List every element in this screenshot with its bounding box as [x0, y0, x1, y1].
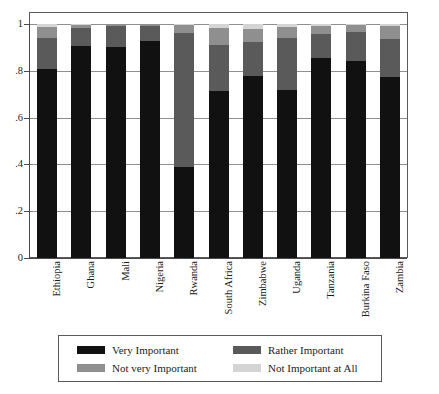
- bar-stack: [174, 24, 194, 258]
- legend-swatch-not-very-important: [77, 364, 105, 372]
- legend-item-label: Rather Important: [268, 344, 343, 356]
- bar-group[interactable]: [277, 24, 297, 258]
- bar-segment[interactable]: [140, 26, 160, 41]
- bar-segment[interactable]: [174, 33, 194, 167]
- bar-group[interactable]: [243, 24, 263, 258]
- bar-segment[interactable]: [71, 28, 91, 45]
- bar-segment[interactable]: [277, 27, 297, 38]
- bar-segment[interactable]: [243, 76, 263, 258]
- legend-item[interactable]: Not Important at All: [221, 359, 377, 377]
- bar-segment[interactable]: [346, 32, 366, 60]
- bar-segment[interactable]: [277, 90, 297, 258]
- legend-item[interactable]: Very Important: [65, 341, 221, 359]
- bar-segment[interactable]: [311, 58, 331, 258]
- bar-stack: [311, 24, 331, 258]
- legend-item[interactable]: Not very Important: [65, 359, 221, 377]
- x-axis-label-text: Zambia: [394, 261, 405, 293]
- bar-segment[interactable]: [209, 91, 229, 258]
- x-axis-label: Tanzania: [325, 261, 336, 299]
- y-tick-label: .2: [0, 206, 23, 216]
- legend-item[interactable]: Rather Important: [221, 341, 377, 359]
- bar-segment[interactable]: [346, 61, 366, 258]
- x-axis-label-text: Ghana: [85, 261, 96, 288]
- bar-group[interactable]: [346, 24, 366, 258]
- y-tick-label-text: .8: [1, 66, 23, 76]
- bar-segment[interactable]: [277, 38, 297, 90]
- bar-stack: [209, 24, 229, 258]
- bar-segment[interactable]: [37, 38, 57, 69]
- bar-group[interactable]: [106, 24, 126, 258]
- bar-segment[interactable]: [380, 77, 400, 258]
- x-axis-labels: EthiopiaGhanaMaliNigeriaRwandaSouth Afri…: [30, 259, 407, 329]
- x-axis-label-text: Nigeria: [154, 261, 165, 293]
- x-axis-label: Ghana: [85, 261, 96, 288]
- bar-segment[interactable]: [37, 27, 57, 38]
- y-tick-label: .4: [0, 159, 23, 169]
- bar-segment[interactable]: [346, 25, 366, 32]
- bar-stack: [380, 24, 400, 258]
- bar-segment[interactable]: [71, 46, 91, 258]
- y-tick-label: .6: [0, 113, 23, 123]
- y-tick-label: 1: [0, 19, 23, 29]
- x-axis-label: Ethiopia: [51, 261, 62, 297]
- bar-segment[interactable]: [174, 167, 194, 258]
- bar-segment[interactable]: [209, 45, 229, 91]
- x-axis-label-text: Tanzania: [325, 261, 336, 299]
- bar-segment[interactable]: [174, 25, 194, 33]
- y-tick-label-text: 1: [1, 19, 23, 29]
- bar-segment[interactable]: [311, 26, 331, 34]
- x-axis-label-text: Ethiopia: [51, 261, 62, 297]
- bar-group[interactable]: [71, 24, 91, 258]
- bar-stack: [140, 24, 160, 258]
- legend-swatch-not-important-at-all: [233, 364, 261, 372]
- bar-segment[interactable]: [380, 26, 400, 39]
- bar-stack: [277, 24, 297, 258]
- bar-segment[interactable]: [106, 26, 126, 47]
- y-tick-label-text: .4: [1, 159, 23, 169]
- x-axis-label-text: South Africa: [223, 261, 234, 314]
- plot-area: [30, 24, 407, 258]
- bar-group[interactable]: [174, 24, 194, 258]
- x-axis-label: Rwanda: [188, 261, 199, 295]
- bar-group[interactable]: [37, 24, 57, 258]
- bar-stack: [243, 24, 263, 258]
- bar-stack: [71, 24, 91, 258]
- legend-swatch-very-important: [77, 346, 105, 354]
- y-tick-label-text: .6: [1, 113, 23, 123]
- y-tick-label-text: 0: [1, 253, 23, 263]
- legend-item-label: Not Important at All: [268, 362, 358, 374]
- bar-group[interactable]: [311, 24, 331, 258]
- legend-item-label: Not very Important: [112, 362, 197, 374]
- x-axis-label-text: Zimbabwe: [257, 261, 268, 306]
- y-tick-label: 0: [0, 253, 23, 263]
- x-axis-label: Nigeria: [154, 261, 165, 293]
- bar-segment[interactable]: [311, 34, 331, 59]
- y-tick-label: .8: [0, 66, 23, 76]
- x-axis-label: Uganda: [291, 261, 302, 294]
- x-axis-label: Burkina Faso: [360, 261, 371, 317]
- x-axis-label: Zimbabwe: [257, 261, 268, 306]
- x-axis-label-text: Burkina Faso: [360, 261, 371, 317]
- bar-segment[interactable]: [243, 29, 263, 42]
- bar-stack: [106, 24, 126, 258]
- bar-group[interactable]: [140, 24, 160, 258]
- bar-segment[interactable]: [106, 47, 126, 258]
- bar-stack: [37, 24, 57, 258]
- bar-segment[interactable]: [140, 41, 160, 258]
- legend-swatch-rather-important: [233, 346, 261, 354]
- legend: Very ImportantRather ImportantNot very I…: [58, 335, 382, 382]
- bar-segment[interactable]: [37, 69, 57, 258]
- x-axis-label-text: Uganda: [291, 261, 302, 294]
- bar-segment[interactable]: [380, 39, 400, 77]
- bar-stack: [346, 24, 366, 258]
- x-axis-label-text: Mali: [120, 261, 131, 281]
- bar-segment[interactable]: [209, 28, 229, 46]
- legend-grid: Very ImportantRather ImportantNot very I…: [65, 341, 377, 377]
- y-tick-label-text: .2: [1, 206, 23, 216]
- legend-item-label: Very Important: [112, 344, 179, 356]
- bar-group[interactable]: [209, 24, 229, 258]
- x-axis-label: South Africa: [223, 261, 234, 314]
- bar-segment[interactable]: [243, 42, 263, 76]
- x-axis-label-text: Rwanda: [188, 261, 199, 295]
- bar-group[interactable]: [380, 24, 400, 258]
